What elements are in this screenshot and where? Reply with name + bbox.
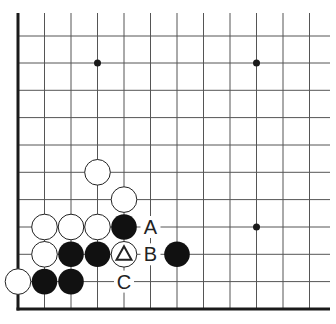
black-stone [32, 269, 58, 295]
star-point [94, 60, 101, 67]
white-stone [32, 214, 58, 240]
black-stone [58, 242, 84, 268]
star-point [253, 224, 260, 231]
move-label-b: B [144, 243, 157, 265]
white-stone [111, 187, 137, 213]
black-stone [85, 242, 111, 268]
white-stone [32, 242, 58, 268]
white-stone [5, 269, 31, 295]
white-stone [85, 214, 111, 240]
white-stone [111, 242, 137, 268]
white-stone [85, 160, 111, 186]
black-stone [164, 242, 190, 268]
go-board: ABC [0, 0, 336, 324]
white-stone [58, 214, 84, 240]
black-stone [58, 269, 84, 295]
move-label-c: C [117, 271, 131, 293]
star-point [253, 60, 260, 67]
black-stone [111, 214, 137, 240]
move-label-a: A [144, 216, 158, 238]
